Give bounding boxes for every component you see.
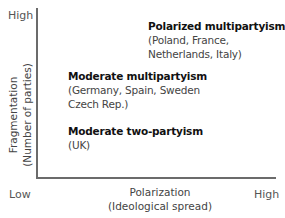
region-examples-line: (Poland, France, [148,33,285,47]
region-examples-line: (Germany, Spain, Sweden [68,83,207,97]
y-axis-line [36,8,38,179]
region-examples-line: Netherlands, Italy) [148,47,285,61]
region-moderate-two-partyism: Moderate two-partyism (UK) [68,124,203,152]
y-axis-title: Fragmentation (Number of parties) [7,63,34,167]
x-axis-line [36,177,276,179]
region-examples-line: Czech Rep.) [68,97,207,111]
region-heading: Moderate two-partyism [68,124,203,138]
region-heading: Polarized multipartyism [148,19,285,33]
region-examples-line: (UK) [68,138,203,152]
y-axis-title-line2: (Number of parties) [20,63,34,167]
x-axis-title-line2: (Ideological spread) [108,200,212,214]
x-axis-high-label: High [254,188,279,201]
region-heading: Moderate multipartyism [68,69,207,83]
region-moderate-multipartyism: Moderate multipartyism (Germany, Spain, … [68,69,207,111]
x-axis-low-label: Low [9,188,31,201]
y-axis-high-label: High [8,9,33,22]
x-axis-title-line1: Polarization [108,186,212,200]
y-axis-title-line1: Fragmentation [7,63,21,167]
x-axis-title: Polarization (Ideological spread) [108,186,212,213]
region-polarized-multipartyism: Polarized multipartyism (Poland, France,… [148,19,285,61]
